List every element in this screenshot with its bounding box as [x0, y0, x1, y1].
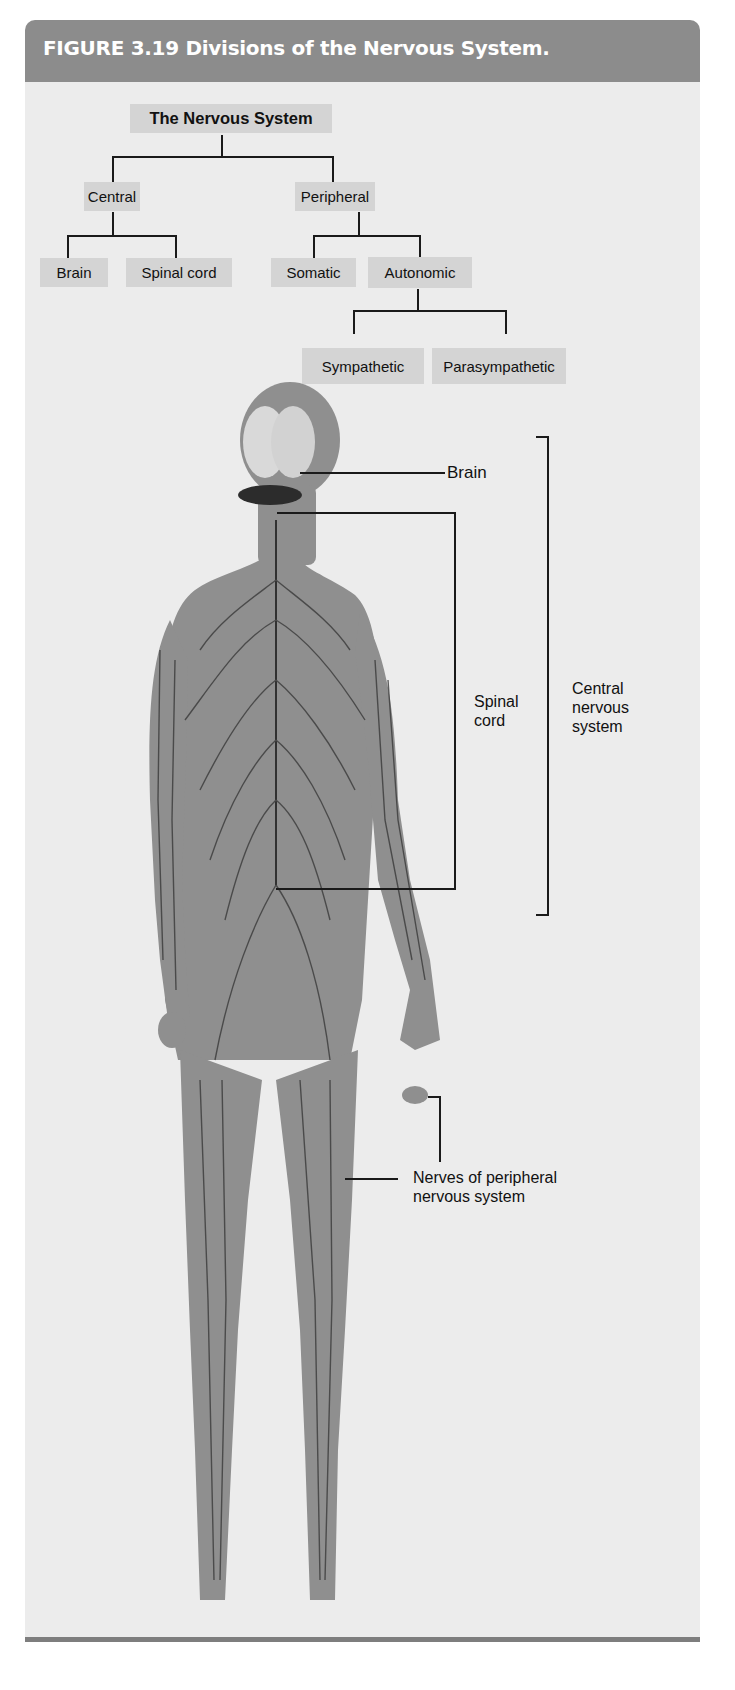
brain-right-hemisphere — [271, 406, 315, 478]
label-spinal-cord: Spinal cord — [474, 692, 518, 730]
label-cns-line-1: Central — [572, 679, 629, 698]
label-central-nervous-system: Central nervous system — [572, 679, 629, 736]
torso — [163, 560, 380, 1060]
label-pns-line-2: nervous system — [413, 1187, 557, 1206]
pns-hand-leader-line — [428, 1097, 440, 1162]
body-illustration — [0, 0, 735, 1690]
cns-bracket — [536, 437, 548, 915]
label-cns-line-3: system — [572, 717, 629, 736]
label-brain: Brain — [447, 463, 487, 482]
human-body-silhouette — [149, 382, 440, 1600]
cerebellum — [238, 485, 302, 505]
label-pns-line-1: Nerves of peripheral — [413, 1168, 557, 1187]
left-arm — [149, 620, 190, 1020]
label-peripheral-nerves: Nerves of peripheral nervous system — [413, 1168, 557, 1206]
left-hand — [158, 1012, 186, 1048]
right-leg — [276, 1050, 358, 1600]
label-cns-line-2: nervous — [572, 698, 629, 717]
right-hand — [402, 1086, 428, 1104]
label-spinal-cord-line-2: cord — [474, 711, 518, 730]
label-spinal-cord-line-1: Spinal — [474, 692, 518, 711]
